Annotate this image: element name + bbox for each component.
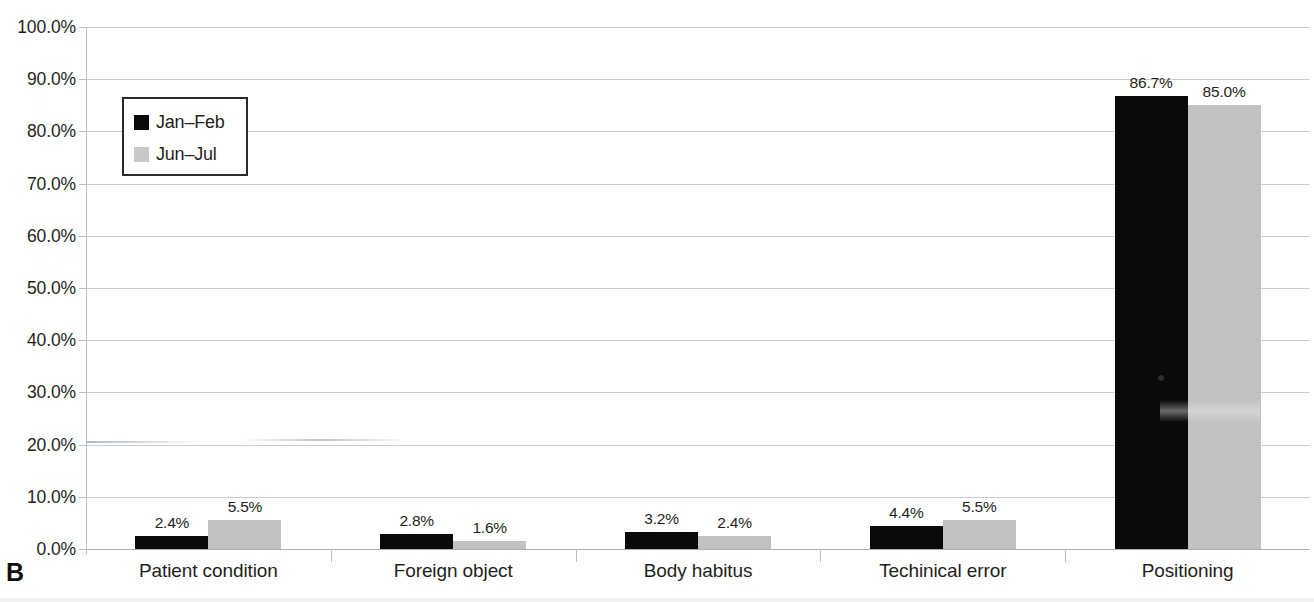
y-axis-tick <box>79 27 87 28</box>
y-axis-tick <box>79 131 87 132</box>
bar <box>453 541 526 549</box>
y-axis-tick <box>79 497 87 498</box>
bar-value-label: 85.0% <box>1203 83 1246 101</box>
plot-area: 2.4%5.5%2.8%1.6%3.2%2.4%4.4%5.5%86.7%85.… <box>86 27 1310 549</box>
legend-item-jun-jul: Jun–Jul <box>134 138 246 170</box>
bar-value-label: 1.6% <box>472 519 507 537</box>
y-axis-tick-label: 30.0% <box>0 382 76 403</box>
category-label: Body habitus <box>644 560 753 582</box>
bar-value-label: 2.4% <box>155 514 190 532</box>
bar-value-label: 86.7% <box>1130 74 1173 92</box>
y-axis-tick-label: 70.0% <box>0 173 76 194</box>
y-axis-tick <box>79 288 87 289</box>
legend-label-jun-jul: Jun–Jul <box>156 144 217 165</box>
bar <box>1115 96 1188 549</box>
y-axis-tick-label: 10.0% <box>0 486 76 507</box>
legend-swatch-icon-jan-feb <box>134 115 149 130</box>
gridline <box>86 27 1310 28</box>
bar <box>380 534 453 549</box>
y-axis-tick <box>79 392 87 393</box>
y-axis-tick <box>79 236 87 237</box>
y-axis-tick-label: 90.0% <box>0 69 76 90</box>
category-label: Foreign object <box>394 560 513 582</box>
gridline <box>86 79 1310 80</box>
y-axis-tick-label: 50.0% <box>0 278 76 299</box>
y-axis-tick <box>79 184 87 185</box>
bar <box>943 520 1016 549</box>
y-axis-tick-label: 100.0% <box>0 17 76 38</box>
category-label: Positioning <box>1142 560 1234 582</box>
category-separator-tick <box>331 549 332 562</box>
y-axis-tick-label: 80.0% <box>0 121 76 142</box>
category-separator-tick <box>1065 549 1066 562</box>
bar-value-label: 5.5% <box>228 498 263 516</box>
bar <box>208 520 281 549</box>
y-axis-tick <box>79 79 87 80</box>
x-axis-line <box>86 549 1310 550</box>
bar <box>135 536 208 549</box>
bar-value-label: 4.4% <box>889 504 924 522</box>
bar <box>698 536 771 549</box>
legend-swatch-icon-jun-jul <box>134 147 149 162</box>
legend: Jan–Feb Jun–Jul <box>122 97 248 176</box>
bar-value-label: 5.5% <box>962 498 997 516</box>
y-axis-tick <box>79 445 87 446</box>
y-axis-tick-label: 20.0% <box>0 434 76 455</box>
y-axis-tick-label: 0.0% <box>0 539 76 560</box>
bar <box>870 526 943 549</box>
scan-artifact-edge <box>0 598 1314 602</box>
panel-letter: B <box>6 558 24 587</box>
category-separator-tick <box>820 549 821 562</box>
y-axis-tick-label: 60.0% <box>0 225 76 246</box>
category-label: Techinical error <box>879 560 1006 582</box>
category-label: Patient condition <box>139 560 278 582</box>
chart-figure-panel-b: 0.0%10.0%20.0%30.0%40.0%50.0%60.0%70.0%8… <box>0 0 1314 602</box>
bar-value-label: 2.4% <box>717 514 752 532</box>
category-separator-tick <box>576 549 577 562</box>
bar-value-label: 3.2% <box>644 510 679 528</box>
y-axis-tick-label: 40.0% <box>0 330 76 351</box>
y-axis-labels: 0.0%10.0%20.0%30.0%40.0%50.0%60.0%70.0%8… <box>0 0 76 602</box>
bar <box>625 532 698 549</box>
bar-value-label: 2.8% <box>399 512 434 530</box>
y-axis-tick <box>79 340 87 341</box>
legend-label-jan-feb: Jan–Feb <box>156 112 225 133</box>
legend-item-jan-feb: Jan–Feb <box>134 106 246 138</box>
y-axis-tick <box>79 549 87 550</box>
bar <box>1188 105 1261 549</box>
